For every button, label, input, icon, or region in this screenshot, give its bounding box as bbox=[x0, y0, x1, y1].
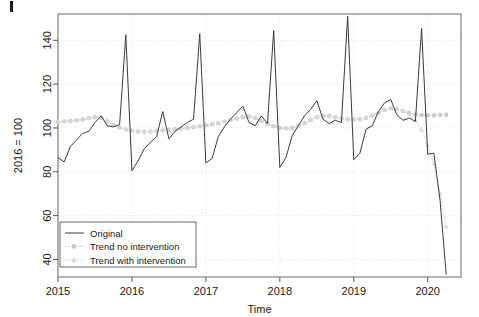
legend-label: Trend with intervention bbox=[90, 255, 186, 266]
page-margin-artifact bbox=[10, 1, 13, 12]
trend-marker-circle bbox=[432, 113, 436, 117]
y-tick-label: 80 bbox=[41, 166, 53, 178]
trend-marker-circle bbox=[438, 113, 442, 117]
legend-marker-circle bbox=[72, 244, 77, 249]
series-trend-no-intervention bbox=[56, 106, 449, 134]
trend-marker-triangle bbox=[444, 224, 449, 228]
x-tick-label: 2015 bbox=[46, 285, 70, 297]
x-tick-label: 2019 bbox=[342, 285, 366, 297]
x-tick-label: 2020 bbox=[415, 285, 439, 297]
y-tick-label: 60 bbox=[41, 210, 53, 222]
y-tick-label: 120 bbox=[41, 75, 53, 93]
chart-figure: 406080100120140201520162017201820192020 … bbox=[0, 0, 479, 317]
x-axis-title: Time bbox=[247, 303, 271, 315]
y-axis-title: 2016 = 100 bbox=[12, 118, 24, 173]
x-tick-label: 2016 bbox=[120, 285, 144, 297]
trend-marker-circle bbox=[444, 113, 448, 117]
trend-marker-circle bbox=[419, 113, 423, 117]
trend-line bbox=[58, 108, 446, 131]
trend-marker-triangle bbox=[438, 191, 443, 195]
legend-label: Trend no intervention bbox=[90, 241, 179, 252]
y-tick-label: 140 bbox=[41, 31, 53, 49]
x-tick-label: 2017 bbox=[194, 285, 218, 297]
chart-legend: OriginalTrend no interventionTrend with … bbox=[60, 222, 196, 267]
y-tick-label: 100 bbox=[41, 119, 53, 137]
x-tick-label: 2018 bbox=[268, 285, 292, 297]
y-tick-label: 40 bbox=[41, 253, 53, 265]
timeseries-chart: 406080100120140201520162017201820192020 … bbox=[0, 0, 479, 317]
legend-label: Original bbox=[90, 228, 123, 239]
